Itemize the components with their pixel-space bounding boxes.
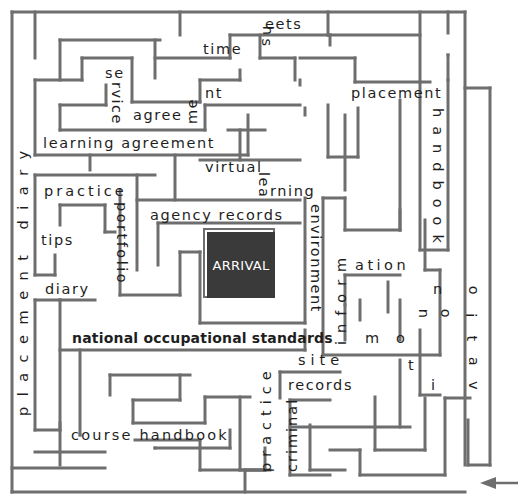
label-motivation-o2: o [466, 286, 481, 295]
label-motivation-m: m [365, 331, 379, 346]
label-time: time [203, 42, 242, 57]
label-nt: nt [205, 86, 223, 101]
label-practice-left: practice [44, 184, 127, 199]
label-sheets-s: s [260, 38, 275, 46]
label-motivation-i: i [431, 378, 435, 393]
label-practice-vertical: practice [259, 365, 274, 472]
label-motivation-a: a [466, 357, 481, 366]
label-placement-diary-vertical: placement diary [16, 140, 31, 416]
label-handbook-vertical: handbook [431, 108, 446, 252]
label-virtual: virtual [205, 160, 263, 175]
label-sheets: eets [265, 17, 302, 32]
label-agency-records: agency records [150, 208, 284, 223]
label-motivation-n: n [433, 282, 442, 297]
label-tips: tips [41, 233, 74, 248]
goal-label: ARRIVAL [212, 258, 269, 273]
label-diary-left: diary [45, 282, 90, 297]
label-agree: agree [133, 108, 183, 123]
label-motivation-n2: n [416, 309, 431, 318]
label-learning-agreement: learning agreement [43, 136, 215, 151]
label-criminal: criminal [285, 398, 300, 472]
label-national-occupational-standards: national occupational standards [72, 331, 333, 345]
label-course-handbook: course handbook [71, 428, 229, 443]
label-motivation-o: o [396, 331, 405, 346]
label-motivation-i2: i [464, 313, 479, 317]
label-ation: ation [355, 258, 409, 273]
label-records-bottom: records [288, 378, 353, 393]
label-rvice: rvice [110, 82, 125, 125]
label-me: me [185, 98, 200, 124]
label-inform: inform [334, 250, 349, 345]
label-rning: rning [270, 184, 315, 199]
label-motivation-v: v [466, 381, 481, 390]
label-lea: lea [257, 172, 272, 198]
label-site: site [298, 353, 344, 368]
label-motivation-t2: t [465, 335, 480, 341]
label-motivation-o3: o [438, 309, 453, 318]
goal-arrival-box: ARRIVAL [207, 232, 275, 298]
arrow-left-icon [480, 477, 518, 489]
label-placement-top: placement [351, 86, 442, 101]
label-motivation-t: t [408, 358, 414, 373]
label-portfolio: portfolio [115, 202, 130, 285]
label-se: se [105, 66, 125, 81]
label-environment: environment [309, 204, 324, 313]
